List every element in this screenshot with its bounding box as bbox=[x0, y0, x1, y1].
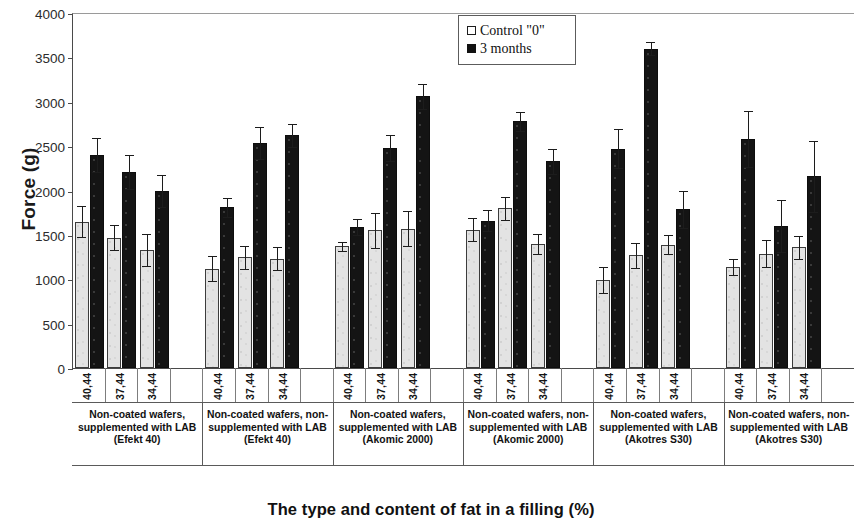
error-bar bbox=[277, 247, 278, 270]
error-bar-cap bbox=[599, 267, 608, 268]
bar-control bbox=[140, 250, 154, 368]
bar-control bbox=[661, 245, 675, 368]
bar-3-months bbox=[90, 155, 104, 368]
bar-3-months bbox=[285, 135, 299, 368]
error-bar bbox=[668, 235, 669, 255]
bar-group bbox=[725, 13, 855, 368]
error-bar-cap bbox=[92, 172, 101, 173]
bar-control bbox=[270, 259, 284, 368]
error-bar-cap bbox=[614, 129, 623, 130]
error-bar bbox=[390, 135, 391, 162]
error-bar-cap bbox=[631, 243, 640, 244]
error-bar-cap bbox=[809, 212, 818, 213]
legend-label-3-months: 3 months bbox=[480, 40, 532, 57]
error-bar bbox=[245, 246, 246, 269]
error-bar-cap bbox=[240, 269, 249, 270]
x-axis-category-label: 37,44 bbox=[505, 368, 517, 400]
error-bar-cap bbox=[125, 189, 134, 190]
error-bar bbox=[260, 127, 261, 159]
bar-pair bbox=[138, 13, 171, 368]
legend-label-control: Control "0" bbox=[480, 22, 545, 39]
error-bar-cap bbox=[255, 159, 264, 160]
error-bar-cap bbox=[353, 219, 362, 220]
bar-group bbox=[334, 13, 464, 368]
bar-pair bbox=[203, 13, 236, 368]
error-bar-cap bbox=[223, 217, 232, 218]
error-bar-cap bbox=[729, 259, 738, 260]
bar-3-months bbox=[513, 121, 527, 368]
bar-pair bbox=[399, 13, 432, 368]
error-bar bbox=[375, 213, 376, 249]
error-bar-cap bbox=[516, 131, 525, 132]
bar-control bbox=[792, 247, 806, 368]
category-separator bbox=[268, 368, 269, 402]
error-bar bbox=[651, 42, 652, 54]
error-bar-cap bbox=[386, 135, 395, 136]
category-separator bbox=[496, 368, 497, 402]
bar-control bbox=[335, 246, 349, 368]
bar-3-months bbox=[416, 96, 430, 368]
error-bar bbox=[357, 219, 358, 235]
error-bar-cap bbox=[744, 167, 753, 168]
error-bar-cap bbox=[338, 251, 347, 252]
bar-3-months bbox=[253, 143, 267, 368]
error-bar-cap bbox=[664, 254, 673, 255]
category-separator bbox=[821, 368, 822, 402]
error-bar bbox=[488, 210, 489, 231]
error-bar bbox=[162, 175, 163, 207]
error-bar bbox=[618, 129, 619, 168]
error-bar bbox=[423, 84, 424, 109]
error-bar-cap bbox=[762, 267, 771, 268]
x-axis-category-label: 40,44 bbox=[212, 368, 224, 400]
category-separator bbox=[691, 368, 692, 402]
group-separator bbox=[593, 368, 594, 402]
bar-pair bbox=[790, 13, 823, 368]
category-separator bbox=[105, 368, 106, 402]
legend-item-control: Control "0" bbox=[467, 22, 568, 39]
bar-control bbox=[368, 230, 382, 368]
bar-3-months bbox=[644, 49, 658, 369]
x-axis-category-label: 34,44 bbox=[537, 368, 549, 400]
error-bar-cap bbox=[516, 112, 525, 113]
error-bar bbox=[408, 211, 409, 247]
error-bar bbox=[292, 124, 293, 147]
category-separator bbox=[170, 368, 171, 402]
error-bar-cap bbox=[208, 281, 217, 282]
error-bar bbox=[342, 242, 343, 251]
x-axis-category-label: 37,44 bbox=[114, 368, 126, 400]
bar-pair bbox=[268, 13, 301, 368]
error-bar bbox=[520, 112, 521, 132]
group-label: Non-coated wafers, non-supplemented with… bbox=[202, 409, 332, 447]
x-axis-category-label: 40,44 bbox=[472, 368, 484, 400]
category-separator bbox=[300, 368, 301, 402]
bar-group bbox=[73, 13, 203, 368]
category-tick-band: 40,4437,4434,4440,4437,4434,4440,4437,44… bbox=[72, 368, 854, 403]
error-bar bbox=[683, 191, 684, 228]
x-axis-category-label: 34,44 bbox=[146, 368, 158, 400]
bar-control bbox=[629, 255, 643, 368]
error-bar-cap bbox=[288, 124, 297, 125]
error-bar bbox=[538, 234, 539, 254]
error-bar-cap bbox=[386, 161, 395, 162]
error-bar-cap bbox=[273, 270, 282, 271]
bar-pair bbox=[725, 13, 758, 368]
x-axis-category-label: 37,44 bbox=[244, 368, 256, 400]
error-bar-cap bbox=[809, 141, 818, 142]
bar-group bbox=[594, 13, 724, 368]
error-bar bbox=[114, 225, 115, 250]
bar-pair bbox=[236, 13, 269, 368]
error-bar-cap bbox=[403, 246, 412, 247]
group-label-band: Non-coated wafers, supplemented with LAB… bbox=[72, 403, 854, 466]
error-bar-cap bbox=[762, 240, 771, 241]
bar-3-months bbox=[220, 207, 234, 368]
error-bar-cap bbox=[614, 168, 623, 169]
bar-pair bbox=[366, 13, 399, 368]
error-bar-cap bbox=[208, 256, 217, 257]
x-axis-category-label: 37,44 bbox=[766, 368, 778, 400]
error-bar bbox=[227, 198, 228, 218]
error-bar bbox=[603, 267, 604, 294]
bar-3-months bbox=[481, 221, 495, 368]
group-label: Non-coated wafers, non-supplemented with… bbox=[724, 409, 854, 447]
bar-control bbox=[401, 229, 415, 368]
bar-3-months bbox=[611, 149, 625, 368]
